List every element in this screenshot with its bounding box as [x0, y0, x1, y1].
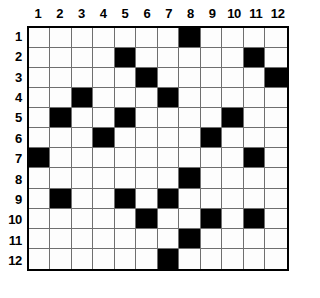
- grid-cell-r5-c1[interactable]: [29, 108, 50, 128]
- grid-cell-r11-c6[interactable]: [136, 229, 157, 249]
- grid-cell-r11-c5[interactable]: [115, 229, 136, 249]
- grid-cell-r4-c8[interactable]: [179, 88, 200, 108]
- grid-cell-r1-c5[interactable]: [115, 28, 136, 48]
- grid-cell-r7-c3[interactable]: [72, 148, 93, 168]
- grid-cell-r8-c5[interactable]: [115, 168, 136, 188]
- grid-cell-r6-c8[interactable]: [179, 128, 200, 148]
- grid-cell-r8-c11[interactable]: [244, 168, 265, 188]
- grid-cell-r12-c11[interactable]: [244, 249, 265, 269]
- grid-cell-r2-c10[interactable]: [222, 48, 243, 68]
- grid-cell-r1-c11[interactable]: [244, 28, 265, 48]
- grid-cell-r10-c12[interactable]: [265, 209, 286, 229]
- grid-cell-r10-c5[interactable]: [115, 209, 136, 229]
- grid-cell-r12-c8[interactable]: [179, 249, 200, 269]
- grid-cell-r10-c10[interactable]: [222, 209, 243, 229]
- grid-cell-r10-c9[interactable]: [201, 209, 222, 229]
- grid-cell-r8-c9[interactable]: [201, 168, 222, 188]
- grid-cell-r5-c8[interactable]: [179, 108, 200, 128]
- grid-cell-r6-c11[interactable]: [244, 128, 265, 148]
- grid-cell-r5-c9[interactable]: [201, 108, 222, 128]
- grid-cell-r1-c12[interactable]: [265, 28, 286, 48]
- grid-cell-r9-c1[interactable]: [29, 189, 50, 209]
- grid-cell-r11-c7[interactable]: [158, 229, 179, 249]
- grid-cell-r2-c6[interactable]: [136, 48, 157, 68]
- grid-cell-r6-c4[interactable]: [93, 128, 114, 148]
- grid-cell-r2-c12[interactable]: [265, 48, 286, 68]
- grid-cell-r10-c2[interactable]: [50, 209, 71, 229]
- grid-cell-r7-c6[interactable]: [136, 148, 157, 168]
- grid-cell-r4-c9[interactable]: [201, 88, 222, 108]
- grid-cell-r1-c2[interactable]: [50, 28, 71, 48]
- grid-cell-r3-c8[interactable]: [179, 68, 200, 88]
- grid-cell-r3-c10[interactable]: [222, 68, 243, 88]
- grid-cell-r11-c4[interactable]: [93, 229, 114, 249]
- grid-cell-r9-c8[interactable]: [179, 189, 200, 209]
- grid-cell-r7-c7[interactable]: [158, 148, 179, 168]
- grid-cell-r2-c7[interactable]: [158, 48, 179, 68]
- grid-cell-r2-c11[interactable]: [244, 48, 265, 68]
- grid-cell-r7-c12[interactable]: [265, 148, 286, 168]
- grid-cell-r4-c11[interactable]: [244, 88, 265, 108]
- grid-cell-r6-c5[interactable]: [115, 128, 136, 148]
- grid-cell-r12-c1[interactable]: [29, 249, 50, 269]
- grid-cell-r6-c12[interactable]: [265, 128, 286, 148]
- grid-cell-r4-c10[interactable]: [222, 88, 243, 108]
- grid-cell-r12-c10[interactable]: [222, 249, 243, 269]
- grid-cell-r8-c12[interactable]: [265, 168, 286, 188]
- grid-cell-r5-c6[interactable]: [136, 108, 157, 128]
- grid-cell-r1-c8[interactable]: [179, 28, 200, 48]
- grid-cell-r3-c1[interactable]: [29, 68, 50, 88]
- grid-cell-r11-c9[interactable]: [201, 229, 222, 249]
- grid-cell-r7-c10[interactable]: [222, 148, 243, 168]
- grid-cell-r10-c7[interactable]: [158, 209, 179, 229]
- grid-cell-r1-c7[interactable]: [158, 28, 179, 48]
- grid-cell-r2-c2[interactable]: [50, 48, 71, 68]
- grid-cell-r9-c11[interactable]: [244, 189, 265, 209]
- grid-cell-r3-c9[interactable]: [201, 68, 222, 88]
- grid-cell-r9-c7[interactable]: [158, 189, 179, 209]
- grid-cell-r2-c4[interactable]: [93, 48, 114, 68]
- grid-cell-r10-c11[interactable]: [244, 209, 265, 229]
- grid-cell-r9-c6[interactable]: [136, 189, 157, 209]
- grid-cell-r12-c2[interactable]: [50, 249, 71, 269]
- grid-cell-r1-c10[interactable]: [222, 28, 243, 48]
- grid-cell-r3-c11[interactable]: [244, 68, 265, 88]
- grid-cell-r11-c12[interactable]: [265, 229, 286, 249]
- grid-cell-r4-c5[interactable]: [115, 88, 136, 108]
- grid-cell-r6-c7[interactable]: [158, 128, 179, 148]
- grid-cell-r1-c9[interactable]: [201, 28, 222, 48]
- grid-cell-r10-c4[interactable]: [93, 209, 114, 229]
- grid-cell-r2-c3[interactable]: [72, 48, 93, 68]
- grid-cell-r4-c4[interactable]: [93, 88, 114, 108]
- grid-cell-r8-c2[interactable]: [50, 168, 71, 188]
- grid-cell-r8-c3[interactable]: [72, 168, 93, 188]
- grid-cell-r4-c1[interactable]: [29, 88, 50, 108]
- grid-cell-r4-c6[interactable]: [136, 88, 157, 108]
- grid-cell-r2-c8[interactable]: [179, 48, 200, 68]
- grid-cell-r9-c4[interactable]: [93, 189, 114, 209]
- grid-cell-r8-c8[interactable]: [179, 168, 200, 188]
- grid-cell-r5-c2[interactable]: [50, 108, 71, 128]
- grid-cell-r4-c12[interactable]: [265, 88, 286, 108]
- grid-cell-r12-c9[interactable]: [201, 249, 222, 269]
- grid-cell-r5-c3[interactable]: [72, 108, 93, 128]
- grid-cell-r5-c5[interactable]: [115, 108, 136, 128]
- grid-cell-r4-c7[interactable]: [158, 88, 179, 108]
- grid-cell-r10-c1[interactable]: [29, 209, 50, 229]
- grid-cell-r7-c9[interactable]: [201, 148, 222, 168]
- grid-cell-r3-c4[interactable]: [93, 68, 114, 88]
- grid-cell-r5-c4[interactable]: [93, 108, 114, 128]
- grid-cell-r11-c11[interactable]: [244, 229, 265, 249]
- grid-cell-r3-c2[interactable]: [50, 68, 71, 88]
- grid-cell-r3-c12[interactable]: [265, 68, 286, 88]
- grid-cell-r8-c10[interactable]: [222, 168, 243, 188]
- grid-cell-r4-c3[interactable]: [72, 88, 93, 108]
- grid-cell-r1-c3[interactable]: [72, 28, 93, 48]
- grid-cell-r7-c4[interactable]: [93, 148, 114, 168]
- grid-cell-r11-c2[interactable]: [50, 229, 71, 249]
- grid-cell-r12-c7[interactable]: [158, 249, 179, 269]
- grid-cell-r5-c12[interactable]: [265, 108, 286, 128]
- grid-cell-r2-c9[interactable]: [201, 48, 222, 68]
- grid-cell-r11-c8[interactable]: [179, 229, 200, 249]
- grid-cell-r9-c12[interactable]: [265, 189, 286, 209]
